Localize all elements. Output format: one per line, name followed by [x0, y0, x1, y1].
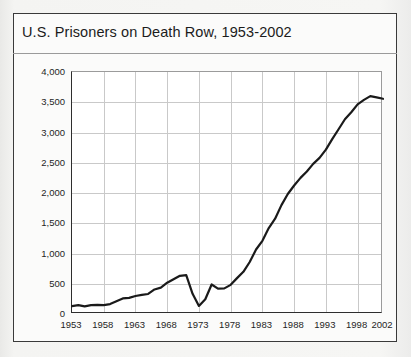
y-axis-tick-label: 2,500 — [41, 156, 65, 167]
y-axis-tick-label: 0 — [60, 308, 65, 319]
series-path-prisoners — [72, 96, 383, 306]
title-divider — [13, 53, 397, 54]
x-axis-tick-label: 2002 — [371, 319, 392, 330]
y-axis-tick-label: 4,000 — [41, 66, 65, 77]
y-axis-tick-label: 1,000 — [41, 247, 65, 258]
x-axis-tick-label: 1958 — [92, 319, 113, 330]
x-axis-tick-label: 1978 — [219, 319, 240, 330]
y-axis-tick-labels: 05001,0001,5002,0002,5003,0003,5004,000 — [18, 71, 65, 313]
chart-plot-area — [71, 71, 382, 313]
page-title: U.S. Prisoners on Death Row, 1953-2002 — [22, 24, 292, 40]
figure-page: U.S. Prisoners on Death Row, 1953-2002 0… — [0, 0, 411, 357]
y-axis-tick-label: 2,000 — [41, 187, 65, 198]
y-axis-tick-label: 1,500 — [41, 217, 65, 228]
x-axis-tick-label: 1953 — [60, 319, 81, 330]
x-axis-tick-label: 1988 — [283, 319, 304, 330]
data-line-series — [72, 72, 383, 314]
y-axis-tick-label: 500 — [49, 277, 65, 288]
x-axis-tick-label: 1998 — [346, 319, 367, 330]
x-axis-tick-label: 1968 — [156, 319, 177, 330]
y-axis-tick-label: 3,500 — [41, 96, 65, 107]
x-axis-tick-label: 1993 — [314, 319, 335, 330]
y-axis-tick-label: 3,000 — [41, 126, 65, 137]
x-axis-tick-label: 1963 — [124, 319, 145, 330]
x-axis-tick-label: 1973 — [187, 319, 208, 330]
x-axis-tick-label: 1983 — [251, 319, 272, 330]
x-axis-tick-labels: 1953195819631968197319781983198819931998… — [71, 319, 382, 335]
